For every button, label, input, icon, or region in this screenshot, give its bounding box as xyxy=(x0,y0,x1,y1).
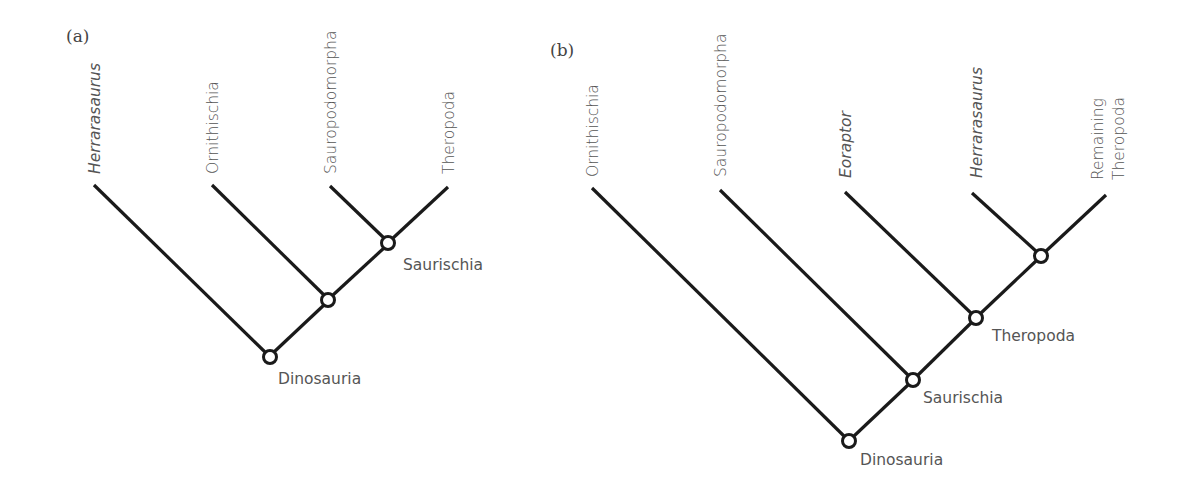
clade-label: Dinosauria xyxy=(860,451,943,469)
cladogram-figure: (a) Herrarasaurus Ornithischia Sauropodo… xyxy=(0,0,1177,495)
branch-internal-2 xyxy=(333,248,384,295)
taxon-label: Ornithischia xyxy=(584,84,602,177)
taxon-label: Herrarasaurus xyxy=(86,63,104,174)
taxon-label: Herrarasaurus xyxy=(968,67,986,178)
taxon-label: Sauropodomorpha xyxy=(322,31,340,174)
node-unnamed xyxy=(322,294,335,307)
node-dinosauria xyxy=(264,351,277,364)
node-theropoda xyxy=(970,312,983,325)
taxon-label: Theropoda xyxy=(440,91,458,174)
branch-sauropodomorpha xyxy=(330,186,385,239)
node-unnamed xyxy=(1035,250,1048,263)
clade-label: Saurischia xyxy=(923,389,1003,407)
branch-sauropodomorpha xyxy=(720,190,909,376)
taxon-label: Sauropodomorpha xyxy=(712,34,730,177)
node-saurischia xyxy=(382,237,395,250)
panel-b: (b) Ornithischia Sauropodomorpha Eorapto… xyxy=(550,34,1128,469)
panel-a: (a) Herrarasaurus Ornithischia Sauropodo… xyxy=(66,26,483,388)
branch-herrarasaurus xyxy=(94,185,266,353)
taxon-label: Eoraptor xyxy=(837,109,855,178)
clade-label: Saurischia xyxy=(403,256,483,274)
branch-internal-1 xyxy=(854,385,908,436)
taxon-label: Ornithischia xyxy=(204,81,222,174)
branch-internal-2 xyxy=(918,323,971,375)
branch-internal-3 xyxy=(981,261,1036,313)
branch-ornithischia xyxy=(212,185,325,296)
branch-ornithischia xyxy=(592,188,845,437)
branch-eoraptor xyxy=(845,192,972,314)
branch-herrarasaurus xyxy=(972,193,1037,252)
taxon-label: Remaining xyxy=(1089,98,1107,180)
panel-b-label: (b) xyxy=(550,40,574,60)
panel-a-label: (a) xyxy=(66,26,89,46)
taxon-label: Theropoda xyxy=(1110,97,1128,180)
node-dinosauria xyxy=(843,435,856,448)
branch-remaining-theropoda xyxy=(1045,195,1106,252)
branch-theropoda xyxy=(392,187,448,239)
branch-internal-1 xyxy=(274,305,324,352)
node-saurischia xyxy=(907,374,920,387)
clade-label: Dinosauria xyxy=(278,370,361,388)
clade-label: Theropoda xyxy=(991,327,1075,345)
